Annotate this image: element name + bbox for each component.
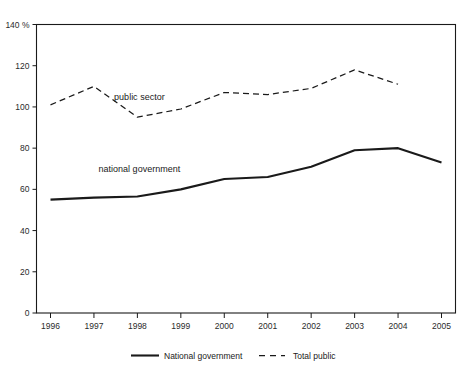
x-tick-label: 1996 <box>41 321 60 331</box>
x-tick-label: 1997 <box>84 321 103 331</box>
y-axis-ticks <box>33 25 37 314</box>
x-tick-label: 2001 <box>258 321 277 331</box>
series-line-national-government <box>51 148 442 200</box>
x-tick-label: 1999 <box>171 321 190 331</box>
x-tick-label: 1998 <box>128 321 147 331</box>
legend-label-national-government: National government <box>164 351 243 361</box>
x-tick-label: 2003 <box>345 321 364 331</box>
x-tick-label: 2002 <box>302 321 321 331</box>
y-tick-label: 120 <box>15 61 29 71</box>
y-tick-label: 0 <box>25 308 30 318</box>
y-axis-tick-labels: 020406080100120140 % <box>5 20 30 319</box>
y-tick-label: 40 <box>20 226 30 236</box>
y-tick-label: 80 <box>20 143 30 153</box>
x-tick-label: 2005 <box>432 321 451 331</box>
x-axis-ticks <box>51 313 442 318</box>
chart-canvas: 020406080100120140 % 1996199719981999200… <box>0 0 471 371</box>
legend-label-total-public: Total public <box>293 351 336 361</box>
line-chart: 020406080100120140 % 1996199719981999200… <box>0 0 471 371</box>
x-axis-tick-labels: 1996199719981999200020012002200320042005 <box>41 321 451 331</box>
x-tick-label: 2000 <box>215 321 234 331</box>
series-line-total-public <box>51 70 399 117</box>
y-tick-label: 60 <box>20 184 30 194</box>
chart-legend: National government Total public <box>131 351 336 361</box>
x-tick-label: 2004 <box>389 321 408 331</box>
annotation-label: national government <box>99 164 181 174</box>
plot-annotations: public sectornational government <box>99 92 181 174</box>
annotation-label: public sector <box>114 92 165 102</box>
y-tick-label: 140 % <box>5 20 30 30</box>
y-tick-label: 100 <box>15 102 29 112</box>
y-tick-label: 20 <box>20 267 30 277</box>
